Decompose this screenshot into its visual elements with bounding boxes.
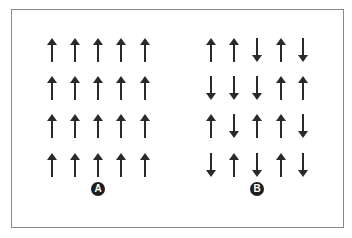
arrow-down-icon bbox=[205, 76, 217, 100]
arrow-down-icon bbox=[251, 38, 263, 62]
arrow-up-icon bbox=[275, 114, 287, 138]
arrow-up-icon bbox=[46, 76, 58, 100]
arrow-up-icon bbox=[251, 114, 263, 138]
arrow-up-icon bbox=[115, 114, 127, 138]
arrow-up-icon bbox=[139, 38, 151, 62]
arrow-down-icon bbox=[205, 153, 217, 177]
arrow-down-icon bbox=[297, 153, 309, 177]
arrow-down-icon bbox=[228, 114, 240, 138]
arrow-up-icon bbox=[92, 114, 104, 138]
arrow-up-icon bbox=[228, 38, 240, 62]
arrow-up-icon bbox=[92, 38, 104, 62]
arrow-up-icon bbox=[205, 38, 217, 62]
arrow-up-icon bbox=[139, 114, 151, 138]
arrow-up-icon bbox=[297, 76, 309, 100]
arrow-down-icon bbox=[251, 76, 263, 100]
arrow-up-icon bbox=[69, 38, 81, 62]
arrow-up-icon bbox=[46, 153, 58, 177]
arrow-up-icon bbox=[69, 114, 81, 138]
arrow-up-icon bbox=[228, 153, 240, 177]
arrow-up-icon bbox=[115, 76, 127, 100]
arrow-up-icon bbox=[139, 153, 151, 177]
arrow-up-icon bbox=[275, 76, 287, 100]
arrow-down-icon bbox=[297, 38, 309, 62]
panel-a-label: A bbox=[91, 182, 105, 196]
arrow-up-icon bbox=[205, 114, 217, 138]
arrow-up-icon bbox=[275, 38, 287, 62]
arrow-down-icon bbox=[251, 153, 263, 177]
arrow-up-icon bbox=[69, 153, 81, 177]
arrow-down-icon bbox=[297, 114, 309, 138]
arrow-up-icon bbox=[92, 76, 104, 100]
arrow-up-icon bbox=[69, 76, 81, 100]
arrow-up-icon bbox=[92, 153, 104, 177]
arrow-up-icon bbox=[46, 38, 58, 62]
arrow-up-icon bbox=[139, 76, 151, 100]
arrow-down-icon bbox=[228, 76, 240, 100]
arrow-up-icon bbox=[46, 114, 58, 138]
panel-b-label: B bbox=[250, 182, 264, 196]
arrow-up-icon bbox=[115, 153, 127, 177]
diagram-frame bbox=[11, 9, 344, 228]
arrow-up-icon bbox=[115, 38, 127, 62]
arrow-up-icon bbox=[275, 153, 287, 177]
